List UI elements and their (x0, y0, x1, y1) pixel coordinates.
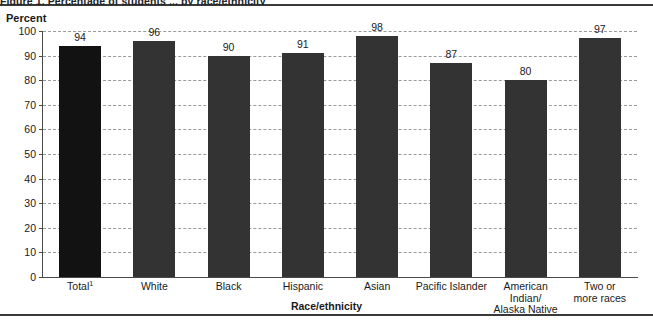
y-axis-tick-label: 60 (24, 123, 36, 135)
y-axis-tick-label: 10 (24, 246, 36, 258)
x-axis-line (42, 277, 638, 278)
x-axis-category-label: Hispanic (266, 281, 340, 293)
x-axis-category-label: Black (192, 281, 266, 293)
gridline (43, 129, 637, 130)
bar[interactable]: 94 (59, 46, 101, 277)
bar-value-label: 80 (520, 65, 532, 77)
bar-value-label: 87 (446, 48, 458, 60)
x-axis-category-label: Asian (340, 281, 414, 293)
x-axis-category-label: Pacific Islander (414, 281, 488, 293)
bar[interactable]: 87 (430, 63, 472, 277)
x-axis-category-label: Total1 (43, 281, 117, 293)
gridline (43, 154, 637, 155)
y-axis-tick-label: 100 (18, 25, 36, 37)
bar[interactable]: 98 (356, 36, 398, 277)
bar[interactable]: 97 (579, 38, 621, 277)
gridline (43, 203, 637, 204)
gridline (43, 228, 637, 229)
bar-value-label: 94 (74, 31, 86, 43)
bottom-divider-rule (0, 314, 653, 316)
bar-value-label: 90 (223, 41, 235, 53)
y-axis-tick-mark (39, 80, 43, 81)
gridline (43, 105, 637, 106)
y-axis-tick-label: 50 (24, 148, 36, 160)
y-axis-tick-mark (39, 179, 43, 180)
gridline (43, 80, 637, 81)
figure-title: Figure 1. Percentage of students ... by … (0, 0, 653, 5)
y-axis-tick-mark (39, 277, 43, 278)
bar-value-label: 91 (297, 38, 309, 50)
y-axis-tick-mark (39, 31, 43, 32)
y-axis-tick-mark (39, 203, 43, 204)
gridline (43, 56, 637, 57)
gridline (43, 31, 637, 32)
y-axis-tick-label: 0 (30, 271, 36, 283)
bar[interactable]: 90 (208, 56, 250, 277)
bar-value-label: 98 (371, 21, 383, 33)
gridline (43, 179, 637, 180)
y-axis-tick-label: 20 (24, 222, 36, 234)
y-axis-tick-label: 30 (24, 197, 36, 209)
y-axis-tick-label: 80 (24, 74, 36, 86)
y-axis-tick-mark (39, 56, 43, 57)
y-axis-tick-mark (39, 228, 43, 229)
y-axis-tick-label: 70 (24, 99, 36, 111)
y-axis-tick-mark (39, 129, 43, 130)
y-axis-caption: Percent (6, 12, 46, 24)
plot-area: 0102030405060708090100 9496909198878097 … (43, 31, 637, 277)
y-axis-tick-mark (39, 105, 43, 106)
x-axis-category-label: White (117, 281, 191, 293)
gridline (43, 252, 637, 253)
y-axis-tick-label: 90 (24, 50, 36, 62)
figure-title-text: Figure 1. Percentage of students ... by … (0, 0, 266, 5)
y-axis-tick-mark (39, 252, 43, 253)
bar[interactable]: 91 (282, 53, 324, 277)
bar[interactable]: 80 (505, 80, 547, 277)
bar-value-label: 96 (149, 26, 161, 38)
x-axis-title: Race/ethnicity (0, 300, 653, 312)
bar-value-label: 97 (594, 23, 606, 35)
y-axis-tick-label: 40 (24, 173, 36, 185)
bar[interactable]: 96 (133, 41, 175, 277)
y-axis-tick-mark (39, 154, 43, 155)
